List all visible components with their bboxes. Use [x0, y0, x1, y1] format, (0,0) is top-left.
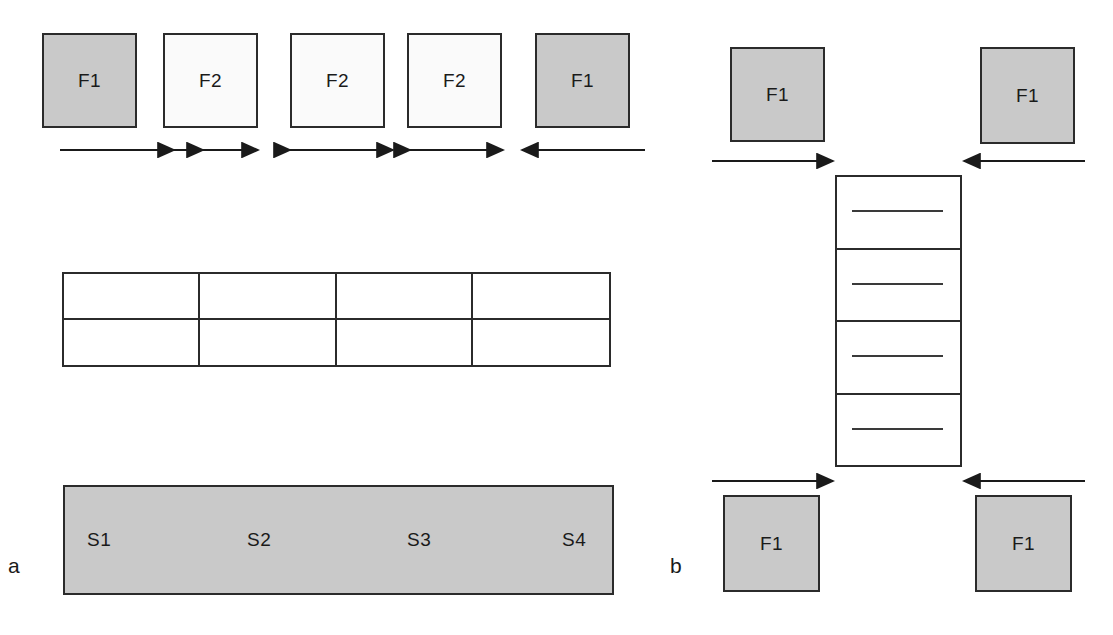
strip-segment-label-s4: S4: [562, 529, 586, 551]
panel-a-top-box-5: F1: [535, 33, 630, 128]
panel-a-top-box-4-label: F2: [443, 70, 466, 92]
table-cell: [64, 274, 200, 320]
figure-root: a F1 F2 F2 F2 F1: [0, 0, 1113, 635]
ladder-rung: [837, 322, 960, 395]
panel-a-top-box-1-label: F1: [78, 70, 101, 92]
strip-segment-label-s3: S3: [407, 529, 431, 551]
table-cell: [337, 274, 473, 320]
panel-b-box-top-left-label: F1: [766, 84, 789, 106]
panel-a-label: a: [8, 555, 20, 576]
panel-b-box-top-right-label: F1: [1016, 85, 1039, 107]
panel-b: b F1 F1 F1 F1: [660, 0, 1113, 635]
table-cell: [337, 320, 473, 366]
panel-a-top-box-2-label: F2: [199, 70, 222, 92]
table-cell: [473, 320, 609, 366]
strip-segment-label-s2: S2: [247, 529, 271, 551]
ladder-rung: [837, 395, 960, 466]
panel-a-top-box-3-label: F2: [326, 70, 349, 92]
table-cell: [200, 274, 336, 320]
panel-a-table: [62, 272, 611, 367]
ladder-rung-line: [852, 428, 943, 430]
panel-b-box-top-left: F1: [730, 47, 825, 142]
panel-b-box-bottom-left: F1: [723, 495, 820, 592]
ladder-rung-line: [852, 210, 943, 212]
table-cell: [200, 320, 336, 366]
panel-a-top-box-5-label: F1: [571, 70, 594, 92]
ladder-rung-line: [852, 355, 943, 357]
panel-a: a F1 F2 F2 F2 F1: [0, 0, 660, 635]
panel-b-box-bottom-right-label: F1: [1012, 533, 1035, 555]
panel-b-box-top-right: F1: [980, 47, 1075, 144]
table-cell: [473, 274, 609, 320]
ladder-rung: [837, 250, 960, 323]
strip-segment-label-s1: S1: [87, 529, 111, 551]
panel-a-top-box-4: F2: [407, 33, 502, 128]
panel-a-top-box-2: F2: [163, 33, 258, 128]
panel-a-shaded-strip: S1 S2 S3 S4: [63, 485, 614, 595]
panel-b-box-bottom-right: F1: [975, 495, 1072, 592]
ladder-rung-line: [852, 283, 943, 285]
ladder-rung: [837, 177, 960, 250]
panel-b-label: b: [670, 555, 682, 576]
panel-b-box-bottom-left-label: F1: [760, 533, 783, 555]
panel-b-ladder: [835, 175, 962, 467]
panel-a-top-box-3: F2: [290, 33, 385, 128]
table-cell: [64, 320, 200, 366]
panel-a-top-box-1: F1: [42, 33, 137, 128]
